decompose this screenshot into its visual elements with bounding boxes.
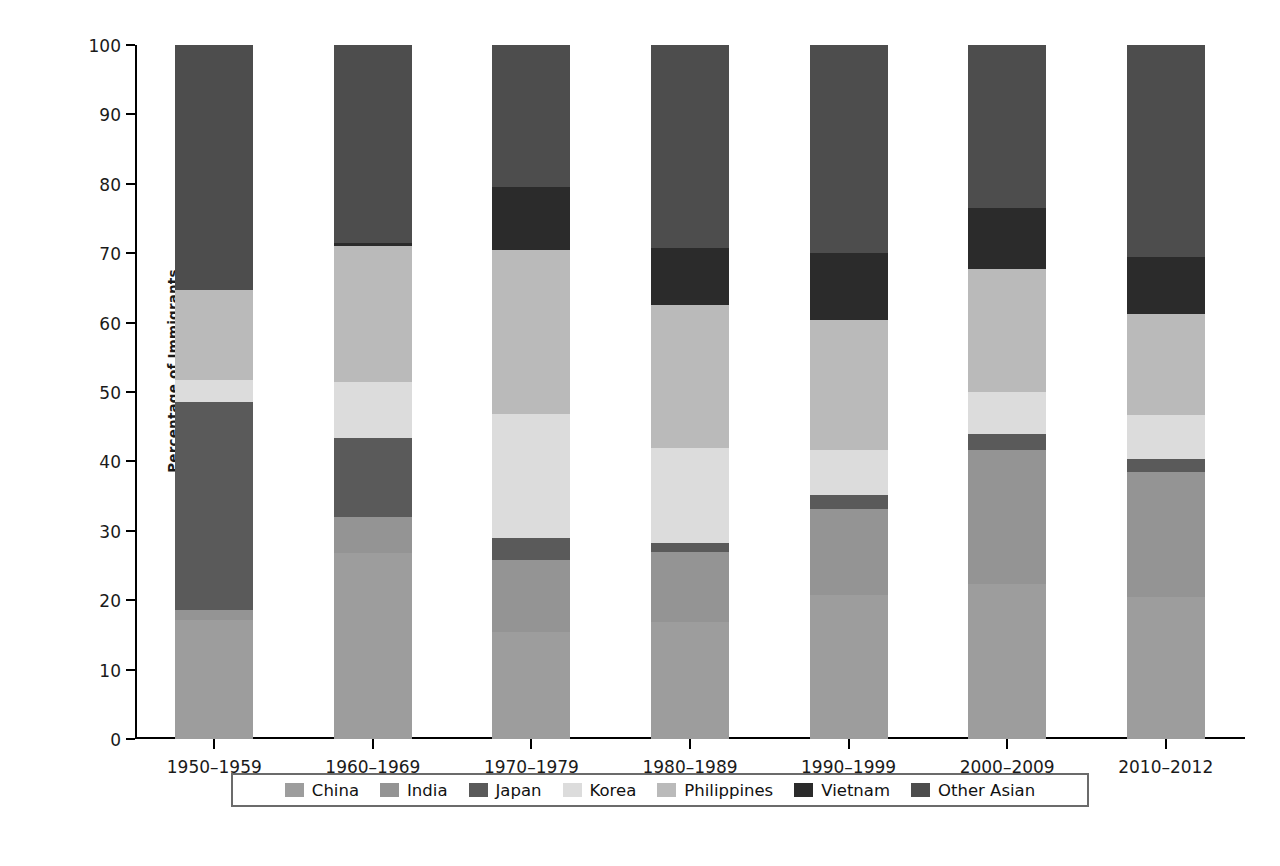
stacked-bar[interactable] [492, 45, 570, 739]
x-tick-mark [689, 739, 691, 749]
bar-segment-vietnam[interactable] [968, 208, 1046, 269]
bar-segment-korea[interactable] [968, 392, 1046, 434]
bar-segment-other-asian[interactable] [492, 45, 570, 187]
x-tick-mark [372, 739, 374, 749]
x-tick-label: 2010–2012 [1118, 757, 1213, 777]
bar-segment-korea[interactable] [175, 380, 253, 402]
bar-segment-korea[interactable] [492, 414, 570, 538]
stacked-bar[interactable] [968, 45, 1046, 739]
bar-segment-japan[interactable] [175, 402, 253, 610]
bar-segment-other-asian[interactable] [334, 45, 412, 243]
bar-segment-china[interactable] [175, 620, 253, 739]
bar-segment-india[interactable] [810, 509, 888, 596]
chart-legend: ChinaIndiaJapanKoreaPhilippinesVietnamOt… [231, 773, 1089, 807]
legend-swatch-icon [911, 783, 930, 797]
legend-item[interactable]: Vietnam [794, 781, 890, 800]
bar-segment-india[interactable] [651, 552, 729, 622]
stacked-bar[interactable] [334, 45, 412, 739]
bar-segment-india[interactable] [1127, 472, 1205, 598]
bar-segment-japan[interactable] [334, 438, 412, 517]
y-tick-mark [126, 113, 135, 115]
stacked-bar[interactable] [175, 45, 253, 739]
bar-segment-korea[interactable] [651, 448, 729, 543]
bar-segment-other-asian[interactable] [968, 45, 1046, 208]
legend-label: Japan [496, 781, 542, 800]
y-tick-mark [126, 738, 135, 740]
bar-segment-china[interactable] [492, 632, 570, 739]
legend-item[interactable]: China [285, 781, 359, 800]
legend-swatch-icon [794, 783, 813, 797]
legend-item[interactable]: Other Asian [911, 781, 1035, 800]
x-tick-mark [848, 739, 850, 749]
bar-segment-korea[interactable] [334, 382, 412, 438]
y-tick-mark [126, 183, 135, 185]
stacked-bar[interactable] [1127, 45, 1205, 739]
legend-item[interactable]: Japan [469, 781, 542, 800]
bar-segment-china[interactable] [968, 584, 1046, 739]
bar-segment-china[interactable] [651, 622, 729, 739]
bar-segment-india[interactable] [492, 560, 570, 632]
legend-swatch-icon [657, 783, 676, 797]
y-tick-mark [126, 460, 135, 462]
legend-label: Korea [590, 781, 637, 800]
bar-segment-korea[interactable] [810, 450, 888, 495]
legend-item[interactable]: India [380, 781, 448, 800]
y-tick-mark [126, 599, 135, 601]
bar-segment-other-asian[interactable] [175, 45, 253, 290]
legend-swatch-icon [285, 783, 304, 797]
bar-segment-china[interactable] [810, 595, 888, 739]
bar-segment-philippines[interactable] [334, 246, 412, 382]
bar-segment-india[interactable] [968, 450, 1046, 584]
bar-segment-india[interactable] [175, 610, 253, 620]
bar-segment-japan[interactable] [810, 495, 888, 508]
bar-segment-vietnam[interactable] [651, 248, 729, 305]
bar-segment-japan[interactable] [651, 543, 729, 552]
bar-segment-philippines[interactable] [810, 320, 888, 450]
y-tick-mark [126, 44, 135, 46]
y-tick-mark [126, 530, 135, 532]
y-tick-mark [126, 322, 135, 324]
bar-segment-japan[interactable] [1127, 459, 1205, 472]
bar-segment-philippines[interactable] [968, 269, 1046, 392]
top-rule [0, 0, 1280, 7]
bar-segment-vietnam[interactable] [334, 243, 412, 246]
legend-item[interactable]: Korea [563, 781, 637, 800]
legend-label: Other Asian [938, 781, 1035, 800]
bar-segment-japan[interactable] [492, 538, 570, 560]
figure: Percentage of Immigrants 010203040506070… [0, 11, 1280, 846]
plot-area: Percentage of Immigrants 010203040506070… [135, 45, 1245, 739]
legend-label: Philippines [684, 781, 773, 800]
y-tick-mark [126, 391, 135, 393]
y-tick-mark [126, 252, 135, 254]
bar-segment-other-asian[interactable] [651, 45, 729, 248]
bar-segment-other-asian[interactable] [810, 45, 888, 253]
bar-segment-korea[interactable] [1127, 415, 1205, 459]
legend-item[interactable]: Philippines [657, 781, 773, 800]
stacked-bar[interactable] [810, 45, 888, 739]
bar-segment-philippines[interactable] [651, 305, 729, 448]
legend-swatch-icon [380, 783, 399, 797]
bar-segment-vietnam[interactable] [1127, 257, 1205, 315]
y-tick-mark [126, 669, 135, 671]
bar-segment-other-asian[interactable] [1127, 45, 1205, 257]
stacked-bar[interactable] [651, 45, 729, 739]
bar-segment-philippines[interactable] [492, 250, 570, 414]
legend-swatch-icon [469, 783, 488, 797]
legend-swatch-icon [563, 783, 582, 797]
bar-segment-japan[interactable] [968, 434, 1046, 450]
x-tick-mark [1006, 739, 1008, 749]
bar-segment-india[interactable] [334, 517, 412, 553]
bar-segment-philippines[interactable] [175, 290, 253, 380]
legend-label: China [312, 781, 359, 800]
x-tick-mark [1165, 739, 1167, 749]
bar-segment-china[interactable] [334, 553, 412, 739]
bar-segment-china[interactable] [1127, 597, 1205, 739]
bar-segment-vietnam[interactable] [810, 253, 888, 320]
x-tick-mark [530, 739, 532, 749]
bar-segment-vietnam[interactable] [492, 187, 570, 249]
legend-label: India [407, 781, 448, 800]
x-tick-mark [213, 739, 215, 749]
bar-segment-philippines[interactable] [1127, 314, 1205, 415]
legend-label: Vietnam [821, 781, 890, 800]
